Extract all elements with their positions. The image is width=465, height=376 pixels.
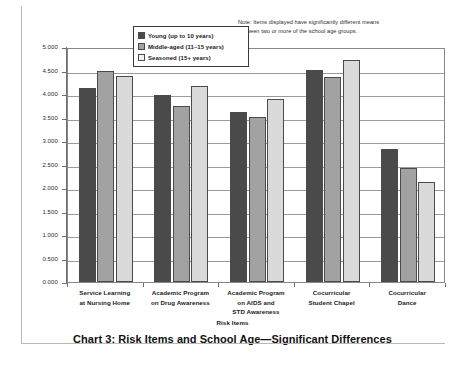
y-axis-tick-label: 2.000	[20, 185, 58, 191]
chart-note-line-1: Note: Items displayed have significantly…	[238, 18, 452, 27]
chart-figure: Note: Items displayed have significantly…	[0, 0, 465, 376]
x-axis-tick-mark	[445, 283, 446, 287]
chart-title: Chart 3: Risk Items and School Age—Signi…	[0, 333, 465, 345]
bar	[249, 117, 266, 282]
x-axis-category-label: Academic Programon AIDS andSTD Awareness	[218, 288, 294, 317]
x-axis-category-line: Academic Program	[143, 288, 219, 298]
bar	[267, 99, 284, 282]
x-axis-category-label: Service Learningat Nursing Home	[67, 288, 143, 307]
legend-item: Middle-aged (11–15 years)	[138, 41, 244, 52]
bar	[230, 112, 247, 282]
x-axis-category-line: Student Chapel	[294, 298, 370, 308]
x-axis-tick-mark	[67, 283, 68, 287]
x-axis-category-line: Service Learning	[67, 288, 143, 298]
x-axis-category-line: Dance	[369, 298, 445, 308]
x-axis-category-line: on AIDS and	[218, 298, 294, 308]
y-axis-tick-label: 2.500	[20, 162, 58, 168]
legend-item: Seasoned (15+ years)	[138, 52, 244, 63]
y-axis-tick-label: 4.500	[20, 68, 58, 74]
x-axis-category-line: Cocurricular	[369, 288, 445, 298]
x-axis-category-label: CocurricularDance	[369, 288, 445, 307]
bar	[418, 182, 435, 282]
y-axis-tick-label: 1.000	[20, 232, 58, 238]
gridline	[68, 73, 444, 74]
x-axis-category-line: STD Awareness	[218, 307, 294, 317]
bar	[400, 168, 417, 282]
bar	[116, 76, 133, 282]
x-axis-category-label: Academic Programon Drug Awareness	[143, 288, 219, 307]
medium-gray-swatch-icon	[138, 43, 145, 50]
y-axis-tick-label: 4.000	[20, 91, 58, 97]
y-axis-tick-label: 5.000	[20, 44, 58, 50]
x-axis-tick-mark	[369, 283, 370, 287]
chart-note-line-2: between two or more of the school age gr…	[238, 27, 452, 36]
bar	[324, 77, 341, 282]
x-axis-category-line: at Nursing Home	[67, 298, 143, 308]
dark-gray-swatch-icon	[138, 32, 145, 39]
x-axis-category-line: Cocurricular	[294, 288, 370, 298]
plot-area	[67, 48, 445, 283]
bar	[191, 86, 208, 282]
y-axis-tick-label: 0.000	[20, 279, 58, 285]
bar	[306, 70, 323, 282]
light-gray-swatch-icon	[138, 54, 145, 61]
legend-item-label: Middle-aged (11–15 years)	[148, 44, 224, 50]
y-axis-tick-label: 3.500	[20, 115, 58, 121]
y-axis-tick-label: 1.500	[20, 209, 58, 215]
bar	[154, 95, 171, 282]
bar	[79, 88, 96, 282]
chart-legend: Young (up to 10 years) Middle-aged (11–1…	[133, 26, 249, 67]
x-axis-tick-mark	[294, 283, 295, 287]
y-axis-tick-label: 0.500	[20, 256, 58, 262]
x-axis-category-line: Academic Program	[218, 288, 294, 298]
chart-note: Note: Items displayed have significantly…	[238, 18, 452, 36]
legend-item: Young (up to 10 years)	[138, 30, 244, 41]
x-axis-category-label: CocurricularStudent Chapel	[294, 288, 370, 307]
legend-item-label: Young (up to 10 years)	[148, 33, 214, 39]
x-axis-category-line: on Drug Awareness	[143, 298, 219, 308]
y-axis-tick-label: 3.000	[20, 138, 58, 144]
bar	[381, 149, 398, 282]
x-axis-tick-mark	[218, 283, 219, 287]
bar	[343, 60, 360, 282]
bar	[97, 71, 114, 282]
x-axis-tick-mark	[143, 283, 144, 287]
x-axis-title: Risk Items	[0, 319, 465, 326]
legend-item-label: Seasoned (15+ years)	[148, 55, 211, 61]
bar	[173, 106, 190, 282]
